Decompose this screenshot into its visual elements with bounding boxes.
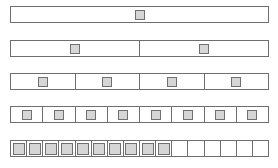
marker-square-icon <box>199 44 209 54</box>
bar-row-2 <box>10 40 269 57</box>
bar-cell <box>27 141 43 156</box>
marker-square-icon <box>54 110 64 120</box>
bar-cell <box>76 141 92 156</box>
bar-cell <box>205 107 237 122</box>
bar-cell <box>76 107 108 122</box>
bar-cell <box>43 107 75 122</box>
bar-cell <box>205 141 221 156</box>
marker-square-icon <box>167 77 177 87</box>
marker-square-icon <box>118 110 128 120</box>
bar-cell <box>221 141 237 156</box>
bar-cell <box>11 7 268 22</box>
marker-square-icon <box>70 44 80 54</box>
bar-cell <box>237 107 268 122</box>
marker-square-icon <box>93 143 105 155</box>
marker-square-icon <box>13 143 25 155</box>
marker-square-icon <box>151 110 161 120</box>
bar-cell <box>172 141 188 156</box>
bar-cell <box>76 74 141 89</box>
bar-cell <box>92 141 108 156</box>
bar-cell <box>172 107 204 122</box>
marker-square-icon <box>135 10 145 20</box>
bar-row-4 <box>10 106 269 123</box>
bar-cell <box>237 141 253 156</box>
bar-cell <box>108 107 140 122</box>
bar-row-5 <box>10 140 269 157</box>
bar-cell <box>43 141 59 156</box>
marker-square-icon <box>102 77 112 87</box>
marker-square-icon <box>77 143 89 155</box>
bar-cell <box>140 41 268 56</box>
bar-cell <box>11 41 140 56</box>
bar-cell <box>188 141 204 156</box>
bar-cell <box>59 141 75 156</box>
marker-square-icon <box>247 110 257 120</box>
marker-square-icon <box>215 110 225 120</box>
bar-cell <box>156 141 172 156</box>
marker-square-icon <box>109 143 121 155</box>
marker-square-icon <box>45 143 57 155</box>
bar-cell <box>140 141 156 156</box>
bar-row-1 <box>10 6 269 23</box>
marker-square-icon <box>125 143 137 155</box>
bar-cell <box>124 141 140 156</box>
bar-cell <box>11 141 27 156</box>
marker-square-icon <box>86 110 96 120</box>
marker-square-icon <box>38 77 48 87</box>
bar-cell <box>253 141 268 156</box>
bar-cell <box>140 74 205 89</box>
bar-cell <box>11 107 43 122</box>
marker-square-icon <box>231 77 241 87</box>
bar-cell <box>108 141 124 156</box>
marker-square-icon <box>22 110 32 120</box>
bar-cell <box>140 107 172 122</box>
bar-cell <box>205 74 269 89</box>
bar-cell <box>11 74 76 89</box>
marker-square-icon <box>29 143 41 155</box>
bar-row-3 <box>10 73 269 90</box>
marker-square-icon <box>183 110 193 120</box>
marker-square-icon <box>61 143 73 155</box>
marker-square-icon <box>142 143 154 155</box>
marker-square-icon <box>158 143 170 155</box>
